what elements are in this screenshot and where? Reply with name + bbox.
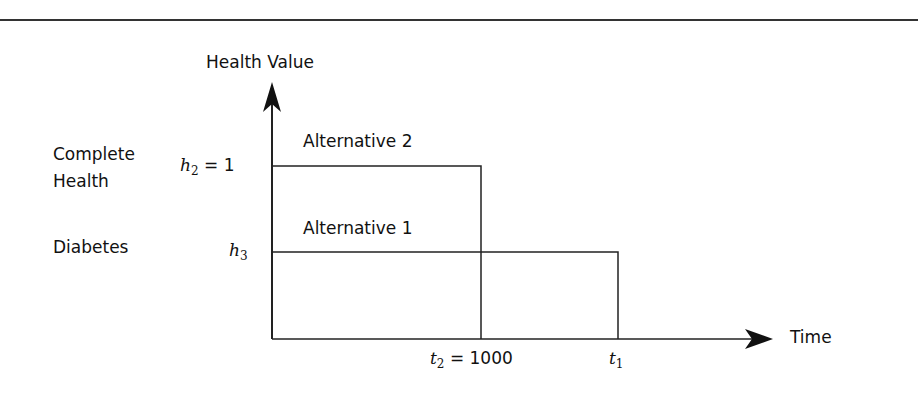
t1-symbol: t xyxy=(609,348,616,368)
t1-tick-label: t1 xyxy=(609,348,623,374)
state-label-health: Health xyxy=(53,171,109,191)
t1-subscript: 1 xyxy=(616,357,624,371)
alternative-2-label: Alternative 2 xyxy=(303,131,413,151)
x-axis-label: Time xyxy=(790,327,832,347)
h2-value: = 1 xyxy=(204,155,234,175)
t2-tick-label: t2 = 1000 xyxy=(430,348,513,374)
h2-tick-label: h2 = 1 xyxy=(180,155,234,181)
h3-symbol: h xyxy=(229,240,240,260)
h2-subscript: 2 xyxy=(191,164,199,178)
h2-symbol: h xyxy=(180,155,191,175)
alternative-1-label: Alternative 1 xyxy=(303,218,413,238)
state-label-diabetes: Diabetes xyxy=(53,237,128,257)
h3-subscript: 3 xyxy=(240,249,248,263)
t2-value: = 1000 xyxy=(450,348,513,368)
state-label-complete: Complete xyxy=(53,144,135,164)
health-time-diagram xyxy=(0,0,918,399)
alternative-1-profile xyxy=(272,252,618,339)
y-axis-label: Health Value xyxy=(206,52,314,72)
t2-subscript: 2 xyxy=(437,357,445,371)
h3-tick-label: h3 xyxy=(229,240,248,266)
t2-symbol: t xyxy=(430,348,437,368)
